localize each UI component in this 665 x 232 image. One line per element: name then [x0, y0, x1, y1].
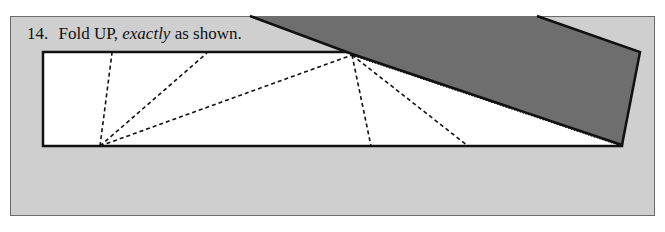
- step-text-after: as shown.: [175, 24, 242, 43]
- step-text-before: Fold UP,: [59, 24, 119, 43]
- step-text-emphasis: exactly: [122, 24, 170, 43]
- step-number: 14.: [27, 24, 48, 43]
- step-caption: 14. Fold UP, exactly as shown.: [27, 24, 242, 44]
